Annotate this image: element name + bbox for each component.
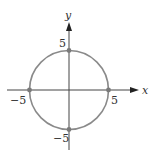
tick-label-x-neg: −5 [10, 94, 26, 107]
point-right [106, 88, 111, 93]
y-axis-label: y [64, 9, 72, 22]
circle-graph: x y 5 −5 5 −5 [0, 0, 153, 156]
x-axis-label: x [142, 84, 149, 97]
tick-label-x-pos: 5 [111, 94, 118, 107]
tick-label-y-neg: −5 [53, 132, 69, 145]
point-left [27, 88, 32, 93]
point-top [67, 48, 72, 53]
tick-label-y-pos: 5 [59, 37, 66, 50]
y-axis-arrow-icon [66, 22, 72, 31]
x-axis-arrow-icon [130, 87, 139, 93]
